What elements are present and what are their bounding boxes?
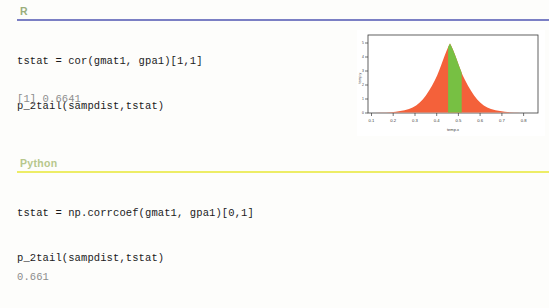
code-block-r[interactable]: tstat = cor(gmat1, gpa1)[1,1] p_2tail(sa… [17, 24, 203, 144]
svg-text:3: 3 [362, 69, 364, 73]
svg-text:0.5: 0.5 [455, 118, 461, 123]
chart-r-svg: 0 1 2 3 4 5 [357, 30, 545, 136]
chart-x-axis-label: temp.x [447, 127, 459, 132]
code-block-python[interactable]: tstat = np.corrcoef(gmat1, gpa1)[0,1] p_… [17, 176, 254, 296]
code-line: tstat = np.corrcoef(gmat1, gpa1)[0,1] [17, 206, 254, 221]
svg-text:0.3: 0.3 [412, 118, 418, 123]
section-r: R tstat = cor(gmat1, gpa1)[1,1] p_2tail(… [0, 0, 549, 150]
svg-text:0.1: 0.1 [369, 118, 375, 123]
section-divider-python [17, 171, 549, 173]
svg-text:0.4: 0.4 [434, 118, 440, 123]
notebook-page: R tstat = cor(gmat1, gpa1)[1,1] p_2tail(… [0, 0, 549, 308]
svg-text:1: 1 [362, 97, 364, 101]
svg-text:0.2: 0.2 [390, 118, 396, 123]
svg-text:0.8: 0.8 [521, 118, 527, 123]
svg-text:0: 0 [362, 111, 364, 115]
language-label-python: Python [20, 157, 57, 169]
chart-y-axis-label: temp.y [358, 72, 362, 83]
language-label-r: R [20, 5, 28, 17]
chart-r-sampling-distribution: 0 1 2 3 4 5 [357, 30, 545, 136]
output-text-r: [1] 0.6641 [17, 92, 81, 107]
svg-text:0.6: 0.6 [477, 118, 483, 123]
section-python: Python tstat = np.corrcoef(gmat1, gpa1)[… [0, 152, 549, 308]
code-line: tstat = cor(gmat1, gpa1)[1,1] [17, 54, 203, 69]
svg-text:5: 5 [362, 41, 364, 45]
svg-text:0.7: 0.7 [499, 118, 505, 123]
svg-text:2: 2 [362, 83, 364, 87]
section-divider-r [17, 19, 549, 21]
output-text-python: 0.661 [17, 270, 49, 285]
svg-text:4: 4 [362, 55, 364, 59]
code-line: p_2tail(sampdist,tstat) [17, 251, 254, 266]
